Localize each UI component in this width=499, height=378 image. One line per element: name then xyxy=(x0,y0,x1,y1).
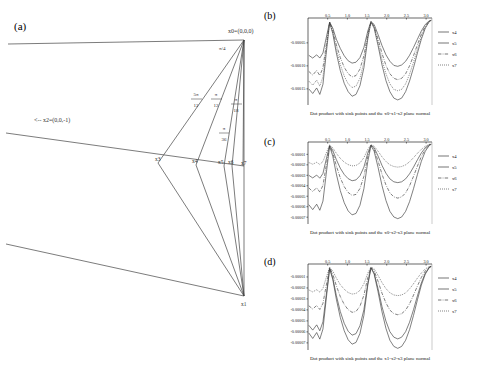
node-label-x6: x6 xyxy=(228,159,234,165)
legend-label-x6: x6 xyxy=(452,298,457,303)
svg-text:2.0: 2.0 xyxy=(384,13,389,18)
node-label-x7: x7 xyxy=(241,160,247,166)
node-label-x4: x4 xyxy=(192,158,198,164)
svg-text:-0.00004: -0.00004 xyxy=(290,183,306,188)
series-line-x5 xyxy=(309,266,431,348)
svg-text:-0.00007: -0.00007 xyxy=(290,340,305,345)
legend-label-x7: x7 xyxy=(452,309,457,314)
plot-d-svg: 0.51.01.52.02.53.0-0.00001-0.00002-0.000… xyxy=(262,248,499,376)
svg-text:0.5: 0.5 xyxy=(325,13,330,18)
svg-text:1.0: 1.0 xyxy=(345,137,350,142)
node-label-x3: x3 xyxy=(155,156,161,162)
panel-a-diagram: (a) x0=(0,0,0) <-- x2=(0,0,-1) xyxy=(0,0,262,378)
svg-text:2.0: 2.0 xyxy=(384,137,389,142)
svg-text:1.5: 1.5 xyxy=(364,137,369,142)
angle-label-pi-over-18: π 18 xyxy=(231,97,242,113)
panel-b-plot: (b) 0.51.01.52.02.53.0-0.00005-0.00010-0… xyxy=(262,2,499,128)
plot-caption: Dot product with sink points and the x1-… xyxy=(310,356,431,361)
svg-text:1.0: 1.0 xyxy=(345,259,350,264)
left-vector-label: <-- x2=(0,0,-1) xyxy=(34,117,70,124)
svg-text:-0.00005: -0.00005 xyxy=(290,194,305,199)
svg-text:-0.00010: -0.00010 xyxy=(290,63,305,68)
svg-text:0.5: 0.5 xyxy=(325,137,330,142)
legend-label-x4: x4 xyxy=(452,276,457,281)
diagram-svg: x0=(0,0,0) <-- x2=(0,0,-1) x3 x4 x5 x6 x… xyxy=(0,0,262,378)
svg-text:1.5: 1.5 xyxy=(364,259,369,264)
legend-label-x6: x6 xyxy=(452,176,457,181)
svg-text:0.5: 0.5 xyxy=(325,259,330,264)
angle-label-pi-over-4: π/4 xyxy=(219,46,226,51)
svg-text:-0.00001: -0.00001 xyxy=(290,152,305,157)
panel-d-plot: (d) 0.51.01.52.02.53.0-0.00001-0.00002-0… xyxy=(262,248,499,376)
apex-label: x0=(0,0,0) xyxy=(228,28,253,35)
legend-label-x5: x5 xyxy=(452,41,457,46)
svg-text:-0.00003: -0.00003 xyxy=(290,173,305,178)
svg-text:-0.00006: -0.00006 xyxy=(290,204,305,209)
svg-text:3.0: 3.0 xyxy=(423,13,428,18)
angle-label-pi-over-36: π 36 xyxy=(219,126,229,142)
svg-text:-0.00015: -0.00015 xyxy=(290,86,305,91)
svg-text:1.0: 1.0 xyxy=(345,13,350,18)
ray-x0-x4 xyxy=(196,40,244,165)
svg-text:-0.00004: -0.00004 xyxy=(290,307,306,312)
svg-text:-0.00007: -0.00007 xyxy=(290,215,305,220)
legend-label-x7: x7 xyxy=(452,63,457,68)
svg-text:3.0: 3.0 xyxy=(423,259,428,264)
svg-text:-0.00005: -0.00005 xyxy=(290,40,305,45)
ray-x3-x1 xyxy=(158,163,244,296)
angle-num-2: π xyxy=(215,92,218,97)
figure-root: (a) x0=(0,0,0) <-- x2=(0,0,-1) xyxy=(0,0,499,378)
svg-text:2.5: 2.5 xyxy=(404,13,409,18)
legend-label-x5: x5 xyxy=(452,165,457,170)
angle-num-3: π xyxy=(235,97,238,102)
edge-top xyxy=(8,40,244,44)
svg-text:2.5: 2.5 xyxy=(404,137,409,142)
plot-caption: Dot product with sink points and the x0-… xyxy=(310,111,431,116)
svg-text:2.0: 2.0 xyxy=(384,259,389,264)
ray-x0-x3 xyxy=(158,40,244,163)
node-label-x1: x1 xyxy=(241,301,247,307)
svg-text:-0.00003: -0.00003 xyxy=(290,296,305,301)
svg-text:-0.00002: -0.00002 xyxy=(290,162,305,167)
angle-num-4: π xyxy=(223,126,226,131)
series-line-x4 xyxy=(309,266,431,338)
legend-label-x7: x7 xyxy=(452,187,457,192)
edge-lower xyxy=(6,244,244,296)
svg-text:1.5: 1.5 xyxy=(364,13,369,18)
svg-text:-0.00001: -0.00001 xyxy=(290,274,305,279)
angle-num-1: 5π xyxy=(193,92,199,97)
angle-den-3: 18 xyxy=(234,108,240,113)
svg-text:-0.00002: -0.00002 xyxy=(290,285,305,290)
angle-label-5pi-over-12: 5π 12 xyxy=(191,92,202,108)
angle-label-pi-over-12: π 12 xyxy=(211,92,222,108)
svg-text:-0.00006: -0.00006 xyxy=(290,329,305,334)
legend-label-x4: x4 xyxy=(452,154,457,159)
angle-den-1: 12 xyxy=(194,103,200,108)
legend-label-x5: x5 xyxy=(452,287,457,292)
angle-den-4: 36 xyxy=(222,137,228,142)
plot-caption: Dot product with sink points and the x0-… xyxy=(310,230,431,235)
legend-label-x6: x6 xyxy=(452,52,457,57)
plot-c-svg: 0.51.01.52.02.53.0-0.00001-0.00002-0.000… xyxy=(262,128,499,248)
ray-x4-x1 xyxy=(196,165,244,296)
svg-text:2.5: 2.5 xyxy=(404,259,409,264)
angle-den-2: 12 xyxy=(214,103,220,108)
plot-b-svg: 0.51.01.52.02.53.0-0.00005-0.00010-0.000… xyxy=(262,2,499,128)
svg-text:3.0: 3.0 xyxy=(423,137,428,142)
panel-c-plot: (c) 0.51.01.52.02.53.0-0.00001-0.00002-0… xyxy=(262,128,499,248)
svg-text:-0.00005: -0.00005 xyxy=(290,318,305,323)
node-label-x5: x5 xyxy=(218,159,224,165)
edge-middle xyxy=(6,133,244,166)
legend-label-x4: x4 xyxy=(452,30,457,35)
series-line-x7 xyxy=(309,20,431,90)
